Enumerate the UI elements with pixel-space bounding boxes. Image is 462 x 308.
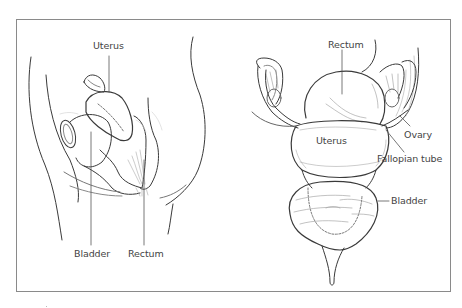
label-uterus-front: Uterus: [316, 135, 347, 146]
side-view-drawing: [29, 37, 205, 245]
label-rectum-front: Rectum: [328, 39, 364, 50]
label-ovary: Ovary: [404, 129, 432, 140]
label-bladder-front: Bladder: [391, 195, 427, 206]
label-uterus-side: Uterus: [93, 40, 124, 51]
stray-mark: [46, 306, 47, 307]
label-bladder-side: Bladder: [74, 248, 110, 259]
label-fallopian-tube: Fallopian tube: [377, 153, 442, 164]
label-rectum-side: Rectum: [128, 248, 164, 259]
